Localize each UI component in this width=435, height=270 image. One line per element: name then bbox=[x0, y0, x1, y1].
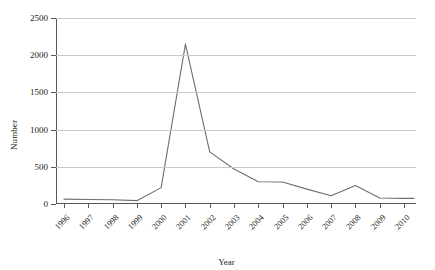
gridline bbox=[56, 18, 416, 19]
y-axis-tick bbox=[51, 55, 56, 56]
x-axis-tick bbox=[307, 204, 308, 208]
x-axis-tick-label: 2002 bbox=[193, 212, 217, 236]
x-axis-tick-label: 2004 bbox=[242, 212, 266, 236]
x-axis-tick bbox=[185, 204, 186, 208]
y-axis-tick bbox=[51, 18, 56, 19]
y-axis-tick bbox=[51, 92, 56, 93]
gridline bbox=[56, 167, 416, 168]
x-axis-tick-label: 2005 bbox=[266, 212, 290, 236]
x-axis-tick bbox=[404, 204, 405, 208]
y-axis-title: Number bbox=[4, 0, 24, 270]
x-axis-title: Year bbox=[0, 257, 435, 267]
y-axis-tick-label: 500 bbox=[35, 162, 49, 172]
line-chart: Number 050010001500200025001996199719981… bbox=[0, 0, 435, 270]
data-series-line bbox=[56, 18, 416, 204]
y-axis-tick bbox=[51, 167, 56, 168]
y-axis-tick bbox=[51, 130, 56, 131]
x-axis-tick bbox=[331, 204, 332, 208]
x-axis-tick bbox=[64, 204, 65, 208]
x-axis-tick-label: 1999 bbox=[120, 212, 144, 236]
plot-area: 0500100015002000250019961997199819992000… bbox=[56, 18, 416, 204]
x-axis-tick-label: 2010 bbox=[388, 212, 412, 236]
x-axis-tick-label: 1997 bbox=[72, 212, 96, 236]
x-axis-tick bbox=[137, 204, 138, 208]
x-axis-tick-label: 2001 bbox=[169, 212, 193, 236]
x-axis-tick bbox=[380, 204, 381, 208]
x-axis-tick bbox=[210, 204, 211, 208]
y-axis-title-text: Number bbox=[9, 120, 19, 150]
x-axis-tick bbox=[88, 204, 89, 208]
x-axis-tick-label: 2007 bbox=[315, 212, 339, 236]
gridline bbox=[56, 55, 416, 56]
gridline bbox=[56, 130, 416, 131]
y-axis-tick-label: 1000 bbox=[30, 125, 48, 135]
x-axis-tick-label: 1998 bbox=[96, 212, 120, 236]
y-axis-tick bbox=[51, 204, 56, 205]
series-path bbox=[64, 44, 414, 201]
y-axis-tick-label: 0 bbox=[44, 199, 49, 209]
gridline bbox=[56, 92, 416, 93]
x-axis-tick-label: 2000 bbox=[145, 212, 169, 236]
x-axis-tick-label: 2008 bbox=[339, 212, 363, 236]
x-axis-tick bbox=[355, 204, 356, 208]
x-axis-tick bbox=[283, 204, 284, 208]
x-axis-tick-label: 2006 bbox=[290, 212, 314, 236]
x-axis-tick-label: 1996 bbox=[48, 212, 72, 236]
x-axis-tick-label: 2009 bbox=[363, 212, 387, 236]
x-axis-tick bbox=[258, 204, 259, 208]
y-axis-tick-label: 1500 bbox=[30, 87, 48, 97]
x-axis-tick bbox=[161, 204, 162, 208]
x-axis-tick bbox=[113, 204, 114, 208]
y-axis-tick-label: 2000 bbox=[30, 50, 48, 60]
x-axis-tick-label: 2003 bbox=[218, 212, 242, 236]
y-axis-tick-label: 2500 bbox=[30, 13, 48, 23]
x-axis-tick bbox=[234, 204, 235, 208]
x-axis-title-text: Year bbox=[218, 257, 235, 267]
